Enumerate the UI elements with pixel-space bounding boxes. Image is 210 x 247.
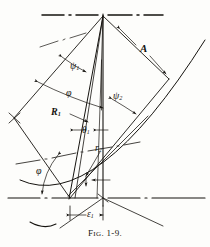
dim-A-left bbox=[120, 29, 136, 45]
ray-r2 bbox=[68, 116, 148, 196]
label-phi-lower: φ bbox=[36, 166, 42, 176]
edge-right-apex bbox=[103, 16, 169, 79]
ray-lower-left bbox=[60, 198, 103, 228]
label-phi-upper: φ bbox=[66, 88, 72, 98]
figure-page: ψ1 ψ2 φ φ R1 θ1 r2 A ε1 FIG. 1-9. bbox=[0, 0, 210, 247]
parabola-arc bbox=[20, 40, 205, 186]
label-R1: R1 bbox=[51, 107, 61, 118]
vertex-tick-left bbox=[9, 113, 20, 123]
label-psi2: ψ2 bbox=[113, 91, 122, 102]
label-A: A bbox=[140, 43, 147, 54]
upper-left-datum bbox=[40, 33, 86, 47]
label-psi1: ψ1 bbox=[70, 61, 79, 72]
label-r2: r2 bbox=[95, 144, 102, 154]
leader-R1 bbox=[70, 114, 88, 122]
figure-drawing bbox=[0, 0, 210, 247]
figure-caption: FIG. 1-9. bbox=[0, 228, 210, 238]
edge-left-lower bbox=[14, 118, 70, 198]
label-epsilon1: ε1 bbox=[87, 210, 94, 220]
label-theta1: θ1 bbox=[82, 126, 90, 136]
small-arc-bottom-left bbox=[30, 222, 56, 227]
dim-A-right bbox=[150, 56, 166, 74]
ray-lower-right bbox=[103, 198, 163, 226]
